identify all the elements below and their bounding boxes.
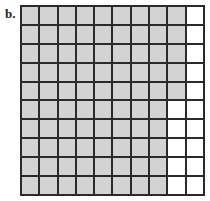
shaded-cell [39, 63, 57, 82]
shaded-cell [167, 63, 185, 82]
unshaded-cell [186, 44, 204, 63]
shaded-cell [76, 25, 94, 44]
shaded-cell [58, 157, 76, 176]
shaded-cell [76, 6, 94, 25]
shaded-cell [112, 138, 130, 157]
shaded-cell [21, 6, 39, 25]
shaded-cell [76, 82, 94, 101]
shaded-cell [39, 6, 57, 25]
shaded-cell [167, 44, 185, 63]
shaded-cell [39, 82, 57, 101]
shaded-cell [112, 44, 130, 63]
figure-label: b. [5, 6, 15, 22]
shaded-cell [112, 100, 130, 119]
shaded-cell [76, 44, 94, 63]
shaded-cell [94, 44, 112, 63]
shaded-cell [149, 82, 167, 101]
shaded-cell [112, 63, 130, 82]
unshaded-cell [186, 82, 204, 101]
shaded-cell [39, 100, 57, 119]
shaded-cell [39, 44, 57, 63]
shaded-cell [149, 6, 167, 25]
shaded-cell [58, 119, 76, 138]
shaded-cell [58, 6, 76, 25]
shaded-cell [94, 119, 112, 138]
shaded-cell [94, 25, 112, 44]
unshaded-cell [186, 25, 204, 44]
shaded-cell [149, 100, 167, 119]
shaded-cell [167, 25, 185, 44]
shaded-cell [58, 176, 76, 195]
shaded-cell [94, 157, 112, 176]
unshaded-cell [186, 138, 204, 157]
shaded-cell [149, 44, 167, 63]
shaded-cell [112, 176, 130, 195]
shaded-cell [149, 157, 167, 176]
shaded-cell [21, 138, 39, 157]
shaded-cell [94, 63, 112, 82]
shaded-cell [76, 138, 94, 157]
shaded-cell [58, 25, 76, 44]
shaded-cell [112, 119, 130, 138]
shaded-cell [131, 82, 149, 101]
shaded-cell [76, 63, 94, 82]
shaded-cell [131, 63, 149, 82]
unshaded-cell [186, 100, 204, 119]
shaded-cell [149, 138, 167, 157]
shaded-cell [131, 176, 149, 195]
shaded-cell [39, 138, 57, 157]
shaded-cell [21, 176, 39, 195]
shaded-cell [21, 44, 39, 63]
shaded-cell [94, 176, 112, 195]
shaded-cell [21, 157, 39, 176]
unshaded-cell [167, 138, 185, 157]
unshaded-cell [167, 119, 185, 138]
shaded-cell [149, 25, 167, 44]
shaded-cell [131, 6, 149, 25]
shaded-cell [131, 119, 149, 138]
shaded-cell [94, 138, 112, 157]
shaded-cell [21, 63, 39, 82]
shaded-cell [131, 44, 149, 63]
shaded-cell [112, 157, 130, 176]
unshaded-cell [167, 157, 185, 176]
shaded-cell [149, 119, 167, 138]
shaded-cell [131, 100, 149, 119]
shaded-cell [94, 82, 112, 101]
unshaded-cell [186, 157, 204, 176]
unshaded-cell [186, 176, 204, 195]
shaded-cell [39, 176, 57, 195]
shaded-cell [76, 100, 94, 119]
shaded-cell [167, 6, 185, 25]
unshaded-cell [186, 63, 204, 82]
shaded-cell [39, 119, 57, 138]
hundred-grid [20, 5, 205, 196]
shaded-cell [21, 119, 39, 138]
shaded-cell [58, 44, 76, 63]
shaded-cell [76, 119, 94, 138]
shaded-cell [21, 82, 39, 101]
shaded-cell [58, 82, 76, 101]
shaded-cell [112, 6, 130, 25]
shaded-cell [21, 25, 39, 44]
unshaded-cell [167, 100, 185, 119]
shaded-cell [131, 25, 149, 44]
shaded-cell [58, 100, 76, 119]
shaded-cell [21, 100, 39, 119]
shaded-cell [112, 82, 130, 101]
shaded-cell [58, 63, 76, 82]
shaded-cell [131, 138, 149, 157]
shaded-cell [149, 63, 167, 82]
shaded-cell [76, 176, 94, 195]
shaded-cell [167, 82, 185, 101]
shaded-cell [58, 138, 76, 157]
shaded-cell [39, 157, 57, 176]
shaded-cell [39, 25, 57, 44]
unshaded-cell [167, 176, 185, 195]
shaded-cell [94, 6, 112, 25]
shaded-cell [76, 157, 94, 176]
unshaded-cell [186, 6, 204, 25]
shaded-cell [94, 100, 112, 119]
shaded-cell [131, 157, 149, 176]
shaded-cell [112, 25, 130, 44]
